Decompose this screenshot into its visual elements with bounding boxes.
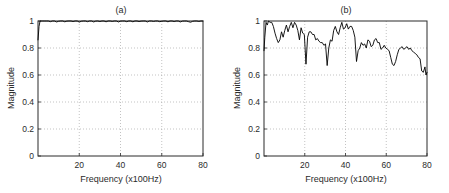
plot-panel-a: (a) 20406080 00.20.40.60.81 Frequency (x… [0,0,225,193]
x-tick-label: 40 [116,160,126,170]
y-tick-label: 0 [255,151,260,161]
x-tick-label: 60 [157,160,167,170]
panel-a-title: (a) [116,5,127,15]
y-tick-label: 0.8 [22,43,34,53]
x-tick-label: 80 [198,160,208,170]
panel-a-gridlines [38,21,203,156]
y-tick-label: 0.8 [248,43,260,53]
figure-container: (a) 20406080 00.20.40.60.81 Frequency (x… [0,0,449,193]
y-tick-label: 0.2 [248,124,260,134]
x-tick-label: 80 [422,160,432,170]
x-tick-label: 20 [300,160,310,170]
panel-a-svg: (a) 20406080 00.20.40.60.81 Frequency (x… [0,0,225,193]
y-tick-label: 0 [29,151,34,161]
panel-b-ylabel: Magnitude [232,67,242,109]
panel-a-xlabel: Frequency (x100Hz) [80,174,162,184]
y-tick-label: 0.4 [248,97,260,107]
plot-panel-b: (b) 20406080 00.20.40.60.81 Frequency (x… [225,0,449,193]
panel-b-gridlines [264,21,427,156]
panel-b-xlabel: Frequency (x100Hz) [305,174,387,184]
x-tick-label: 40 [341,160,351,170]
x-tick-label: 20 [75,160,85,170]
y-tick-label: 0.4 [22,97,34,107]
y-tick-label: 0.6 [248,70,260,80]
y-tick-label: 0.2 [22,124,34,134]
y-tick-label: 1 [29,16,34,26]
y-tick-label: 1 [255,16,260,26]
x-tick-label: 60 [382,160,392,170]
panel-b-svg: (b) 20406080 00.20.40.60.81 Frequency (x… [225,0,449,193]
y-tick-label: 0.6 [22,70,34,80]
panel-a-ylabel: Magnitude [6,67,16,109]
panel-b-title: (b) [341,5,352,15]
